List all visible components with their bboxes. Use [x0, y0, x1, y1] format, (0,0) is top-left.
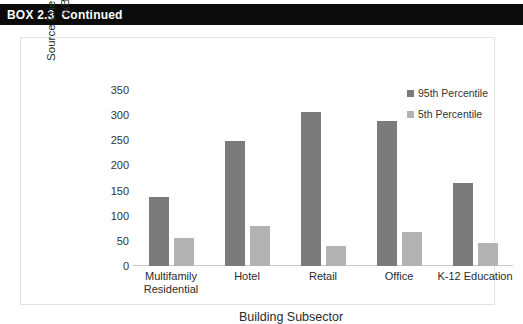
chart-frame: Source Energy Use Intensity (kBtu/sq ft)… — [20, 37, 495, 305]
legend-label: 5th Percentile — [418, 108, 482, 120]
x-category-label-line: K-12 Education — [422, 270, 523, 283]
bar-p95 — [453, 183, 473, 266]
legend-swatch-icon — [407, 90, 414, 97]
bar-p95 — [225, 141, 245, 266]
legend-swatch-icon — [407, 111, 414, 118]
y-tick-label: 250 — [111, 134, 129, 146]
bar-p05 — [402, 232, 422, 266]
x-category-label: K-12 Education — [422, 270, 523, 283]
bar-p05 — [250, 226, 270, 266]
y-tick-label: 50 — [117, 235, 129, 247]
legend-item-p95: 95th Percentile — [407, 87, 488, 99]
bar-p05 — [478, 243, 498, 266]
box-header-label: BOX 2.3 Continued — [0, 8, 123, 22]
bar-p95 — [377, 121, 397, 266]
bar-p05 — [174, 238, 194, 266]
y-tick-label: 100 — [111, 210, 129, 222]
y-tick-label: 350 — [111, 84, 129, 96]
y-tick-label: 300 — [111, 109, 129, 121]
x-axis-title: Building Subsector — [81, 310, 501, 324]
chart-legend: 95th Percentile5th Percentile — [407, 87, 488, 120]
y-tick-label: 150 — [111, 185, 129, 197]
bar-group — [285, 90, 361, 266]
x-category-label-line: Residential — [118, 283, 224, 296]
box-header-bar: BOX 2.3 Continued — [0, 4, 523, 25]
bar-p95 — [149, 197, 169, 266]
bar-p05 — [326, 246, 346, 266]
y-axis-tick-labels: 050100150200250300350 — [99, 90, 129, 266]
bar-group — [209, 90, 285, 266]
bar-group — [133, 90, 209, 266]
x-axis-category-labels: MultifamilyResidentialHotelRetailOfficeK… — [133, 270, 513, 304]
y-tick-label: 200 — [111, 159, 129, 171]
bar-p95 — [301, 112, 321, 266]
legend-label: 95th Percentile — [418, 87, 488, 99]
legend-item-p05: 5th Percentile — [407, 108, 488, 120]
